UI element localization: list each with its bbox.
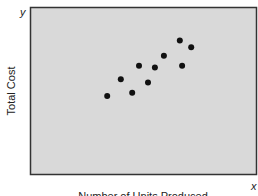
data-point [118,76,124,82]
data-point [177,38,183,44]
data-point [129,90,135,96]
data-point [145,80,151,86]
y-axis-symbol: y [19,6,27,18]
data-point [188,44,194,50]
x-axis-symbol: x [250,180,257,192]
data-point [136,63,142,69]
x-axis-title: Number of Units Produced [78,190,208,196]
y-axis-title: Total Cost [5,67,17,116]
scatter-chart: y x Total Cost Number of Units Produced [0,0,258,196]
data-point [152,65,158,71]
data-point [161,53,167,59]
data-point [104,93,110,99]
data-point [179,63,185,69]
plot-area [31,8,257,175]
